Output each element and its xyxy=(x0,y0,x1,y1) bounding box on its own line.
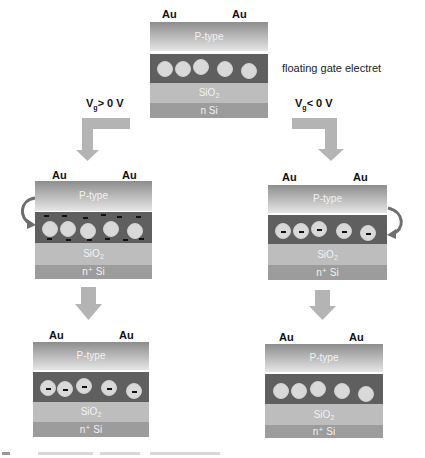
ptype-layer: P-type xyxy=(265,344,383,372)
minus-icon xyxy=(82,386,87,388)
device-initial: Au Au P-type SiO2 n Si xyxy=(150,8,268,118)
bias-label-positive: Vg> 0 V xyxy=(86,97,124,111)
ptype-layer: P-type xyxy=(35,181,152,211)
curved-arrow-right-icon xyxy=(388,208,401,234)
particle xyxy=(42,221,58,237)
interface-charge xyxy=(44,215,49,217)
floating-gate-layer xyxy=(33,372,149,402)
sio2-subscript: 2 xyxy=(100,253,104,260)
elbow-arrow-right-icon xyxy=(292,118,344,161)
au-electrode-right: Au xyxy=(122,169,137,181)
sio2-subscript: 2 xyxy=(97,411,101,418)
particle xyxy=(241,63,257,79)
substrate-layer: n⁺ Si xyxy=(33,422,149,437)
particle xyxy=(80,223,96,239)
au-electrode-left: Au xyxy=(282,171,297,183)
floating-gate-layer xyxy=(265,374,383,404)
particle xyxy=(291,383,307,399)
sio2-subscript: 2 xyxy=(330,414,334,421)
minus-icon xyxy=(342,231,347,233)
particle-charged xyxy=(76,378,92,394)
interface-charge xyxy=(87,239,92,241)
particle xyxy=(193,59,209,75)
particle xyxy=(273,383,289,399)
interface-charge xyxy=(139,238,144,240)
substrate-label: n⁺ Si xyxy=(313,426,336,437)
sio2-layer: SiO2 xyxy=(268,244,387,265)
substrate-layer: n Si xyxy=(150,103,268,118)
particle xyxy=(157,61,173,77)
particle xyxy=(334,383,350,399)
device-positive-bias-programming: Au Au P-type SiO2 n⁺ Si xyxy=(35,169,152,279)
down-arrow-right-icon xyxy=(309,290,336,320)
particle xyxy=(310,381,326,397)
curved-arrow-left-icon xyxy=(22,198,35,224)
au-electrode-left: Au xyxy=(49,329,64,341)
substrate-label: n⁺ Si xyxy=(316,267,339,278)
particle xyxy=(103,221,119,237)
interface-charge xyxy=(101,214,106,216)
substrate-layer: n⁺ Si xyxy=(268,265,387,280)
ptype-label: P-type xyxy=(77,350,106,361)
au-electrode-right: Au xyxy=(349,331,364,343)
ptype-label: P-type xyxy=(79,190,108,201)
substrate-layer: n⁺ Si xyxy=(265,425,383,438)
sio2-layer: SiO2 xyxy=(35,243,152,265)
bias-condition: < 0 V xyxy=(307,97,333,109)
minus-icon xyxy=(299,231,304,233)
particle-charged xyxy=(360,225,376,241)
interface-charge xyxy=(136,216,141,218)
sio2-layer: SiO2 xyxy=(265,404,383,425)
device-negative-bias-result: Au Au P-type SiO2 n⁺ Si xyxy=(265,331,383,441)
particle-charged xyxy=(126,383,142,399)
interface-charge xyxy=(83,217,88,219)
au-electrode-left: Au xyxy=(162,8,177,20)
sio2-label: SiO xyxy=(317,249,334,260)
sio2-subscript: 2 xyxy=(215,92,219,99)
particle xyxy=(217,61,233,77)
sio2-label: SiO xyxy=(81,406,98,417)
au-electrode-right: Au xyxy=(232,8,247,20)
particle-charged xyxy=(336,223,352,239)
particle xyxy=(60,221,76,237)
sio2-label: SiO xyxy=(314,409,331,420)
minus-icon xyxy=(63,389,68,391)
down-arrow-left-icon xyxy=(75,287,102,320)
au-electrode-left: Au xyxy=(279,331,294,343)
interface-charge xyxy=(123,239,128,241)
minus-icon xyxy=(107,388,112,390)
substrate-layer: n⁺ Si xyxy=(35,265,152,279)
caption-truncated xyxy=(0,449,425,458)
sio2-layer: SiO2 xyxy=(33,402,149,422)
floating-gate-layer xyxy=(268,215,387,244)
bias-label-negative: Vg< 0 V xyxy=(295,97,333,111)
au-electrode-right: Au xyxy=(353,171,368,183)
sio2-label: SiO xyxy=(83,248,100,259)
substrate-label: n⁺ Si xyxy=(80,424,103,435)
sio2-layer: SiO2 xyxy=(150,83,268,103)
ptype-layer: P-type xyxy=(268,185,387,213)
device-positive-bias-result: Au Au P-type SiO2 n⁺ Si xyxy=(33,329,149,439)
curved-arrow-right-head-icon xyxy=(387,229,396,239)
minus-icon xyxy=(132,391,137,393)
interface-charge xyxy=(62,215,67,217)
bias-condition: > 0 V xyxy=(98,97,124,109)
sio2-label: SiO xyxy=(199,87,216,98)
ptype-layer: P-type xyxy=(33,342,149,370)
interface-charge xyxy=(117,216,122,218)
floating-gate-annotation: floating gate electret xyxy=(282,62,381,74)
minus-icon xyxy=(317,229,322,231)
substrate-label: n Si xyxy=(200,105,217,116)
particle-charged xyxy=(275,223,291,239)
sio2-subscript: 2 xyxy=(334,254,338,261)
particle-charged xyxy=(293,223,309,239)
au-electrode-right: Au xyxy=(119,329,134,341)
interface-charge xyxy=(105,238,110,240)
minus-icon xyxy=(366,233,371,235)
particle xyxy=(358,386,374,402)
particle xyxy=(175,61,191,77)
interface-charge xyxy=(66,239,71,241)
ptype-label: P-type xyxy=(310,352,339,363)
particle-charged xyxy=(311,221,327,237)
ptype-layer: P-type xyxy=(150,22,268,51)
